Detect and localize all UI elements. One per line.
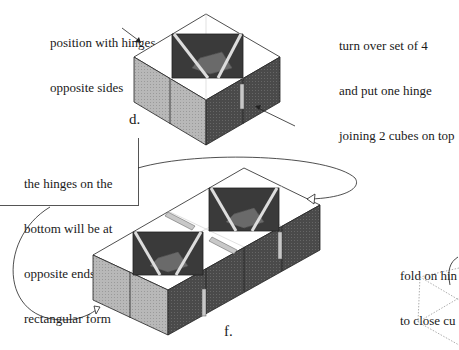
arrow-head-icon — [94, 306, 100, 314]
curved-arrow-bottom — [13, 207, 96, 320]
arrow-head-icon — [135, 37, 141, 43]
step-g-dotted-cube — [418, 268, 459, 345]
step-f-cube-block — [93, 168, 320, 335]
pointer-line — [258, 108, 295, 126]
step-d-cube-block — [134, 14, 280, 145]
pointer-line — [122, 28, 138, 40]
fold-arrow — [449, 257, 458, 285]
cube-illustration — [0, 0, 459, 350]
